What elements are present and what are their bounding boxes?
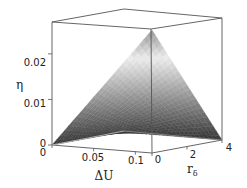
- y-tick-label: 2: [190, 149, 196, 160]
- x-tick-label: 0.1: [128, 155, 144, 166]
- surface: [52, 30, 222, 145]
- x-tick-label: 0.05: [82, 152, 104, 163]
- z-axis-label: η: [16, 78, 23, 92]
- surface-plot: 0.02 0.01 0 η 0 0.05 0.1 ΔU 0 2 4 rδ: [0, 0, 247, 188]
- y-axis-label: rδ: [187, 162, 198, 178]
- x-axis-label: ΔU: [95, 169, 114, 183]
- y-axis-label-subscript: δ: [193, 169, 198, 178]
- box-edge: [124, 9, 222, 18]
- box-edge: [52, 22, 151, 29]
- y-tick-label: 0: [155, 154, 161, 165]
- z-tick-label: 0.01: [24, 98, 46, 109]
- box-edge: [52, 9, 124, 22]
- box-edge: [151, 18, 222, 29]
- x-tick-label: 0: [40, 147, 46, 158]
- y-tick-label: 4: [226, 142, 232, 153]
- z-tick-label: 0.02: [24, 57, 46, 68]
